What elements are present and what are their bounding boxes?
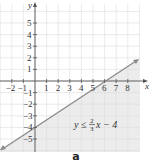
inequality-graph: −2−11234567854321−1−2−3−4−5 x y y ≤ 2 3 …: [0, 0, 152, 163]
eq-op: ≤: [81, 119, 87, 130]
y-tick-label: −1: [23, 88, 33, 98]
eq-tail: x − 4: [95, 119, 117, 130]
x-tick-label: 8: [125, 83, 130, 93]
y-tick-label: 5: [27, 18, 32, 28]
y-tick-label: 1: [27, 64, 32, 74]
y-tick-label: −2: [23, 99, 33, 109]
y-tick-label: 4: [27, 30, 32, 40]
figure-label: a: [0, 150, 152, 163]
y-axis-label: y: [27, 0, 32, 10]
eq-lhs: y: [73, 119, 79, 130]
x-tick-label: 3: [67, 83, 72, 93]
x-axis-label: x: [144, 81, 149, 91]
y-tick-label: −5: [23, 134, 33, 144]
x-tick-label: 5: [91, 83, 96, 93]
y-tick-label: −3: [23, 111, 33, 121]
x-tick-label: 7: [114, 83, 119, 93]
x-tick-label: 4: [79, 83, 84, 93]
y-tick-label: −4: [23, 122, 33, 132]
y-axis-arrow-icon: [33, 2, 37, 7]
eq-denominator: 3: [90, 125, 94, 133]
x-tick-label: 1: [44, 83, 49, 93]
x-tick-label: 2: [56, 83, 61, 93]
y-tick-label: 3: [27, 41, 32, 51]
y-tick-label: 2: [27, 53, 32, 63]
x-tick-label: −2: [6, 83, 16, 93]
eq-numerator: 2: [90, 117, 94, 125]
x-tick-label: 6: [102, 83, 107, 93]
